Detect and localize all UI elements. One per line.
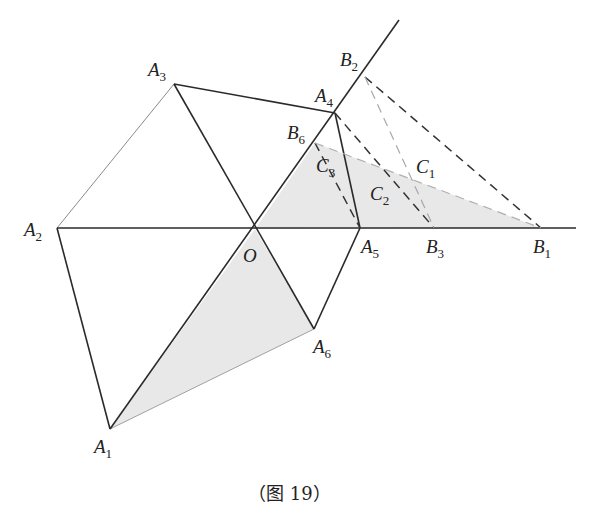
label-B1: B1 (533, 236, 551, 261)
label-B3: B3 (426, 236, 444, 261)
label-C1: C1 (416, 156, 435, 181)
segment-A1-A2 (57, 228, 110, 429)
segment-A5-A6 (314, 228, 360, 329)
label-B2: B2 (340, 49, 358, 74)
label-A6: A6 (311, 336, 332, 361)
label-A4: A4 (313, 85, 334, 110)
figure-caption: （图 19） (248, 483, 331, 504)
geometry-diagram: A3 A2 A1 A4 A5 A6 B2 B6 B3 B1 C3 C2 C1 O… (0, 0, 596, 514)
label-A3: A3 (146, 59, 166, 84)
label-A2: A2 (22, 219, 42, 244)
segment-A3-A4 (174, 84, 335, 113)
label-O: O (243, 245, 257, 266)
segment-A2-A3 (57, 84, 174, 228)
label-A5: A5 (359, 236, 379, 261)
shaded-triangle-O-A1-A6 (110, 229, 314, 429)
label-A1: A1 (92, 436, 112, 461)
label-B6: B6 (287, 122, 306, 147)
